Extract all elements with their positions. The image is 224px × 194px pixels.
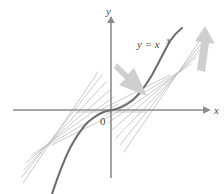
annotation-arrows <box>114 26 215 96</box>
tangent-slope-increasing-arrow <box>195 26 215 72</box>
x-axis-arrowhead <box>203 106 211 114</box>
cubic-tangent-lines-figure: y x 0 y = x 3 <box>0 0 224 194</box>
curve-equation-label: y = x <box>136 38 160 50</box>
coordinate-axes <box>13 23 203 178</box>
origin-label: 0 <box>100 115 106 127</box>
y-axis-arrowhead <box>107 16 115 23</box>
tangent-slope-decreasing-arrow <box>114 63 147 96</box>
y-axis-label: y <box>105 5 111 17</box>
x-axis-label: x <box>213 104 219 116</box>
figure-canvas: y x 0 y = x 3 <box>0 0 224 194</box>
curve-equation-exponent: 3 <box>165 37 170 45</box>
